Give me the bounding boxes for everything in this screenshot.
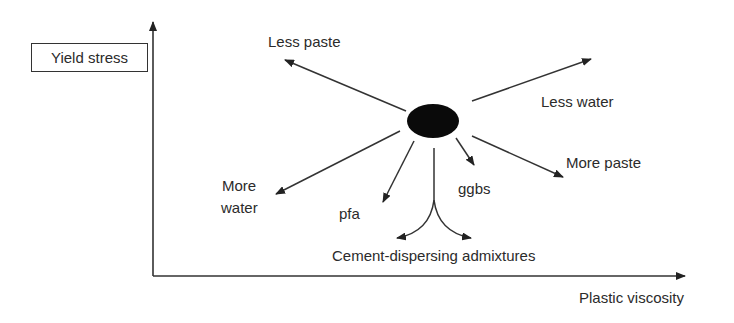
label-cement-dispersing: Cement-dispersing admixtures [332,247,535,264]
arrow-more-paste [472,136,563,177]
x-axis-label: Plastic viscosity [579,289,684,306]
label-less-water: Less water [541,93,614,110]
arrow-cement-dispersing-left [397,200,434,238]
label-more-water-line1: More [222,177,256,194]
label-pfa: pfa [339,205,360,222]
center-node [407,104,459,138]
arrow-ggbs [456,138,474,165]
label-ggbs: ggbs [458,180,491,197]
y-axis-label: Yield stress [31,43,148,72]
label-more-water-line2: water [221,199,258,216]
arrow-pfa [383,141,414,202]
label-less-paste: Less paste [268,33,341,50]
label-more-paste: More paste [566,154,641,171]
y-axis-label-text: Yield stress [51,49,128,66]
arrow-cement-dispersing-right [434,200,471,238]
arrow-less-paste [285,60,406,111]
arrow-more-water [276,131,400,194]
